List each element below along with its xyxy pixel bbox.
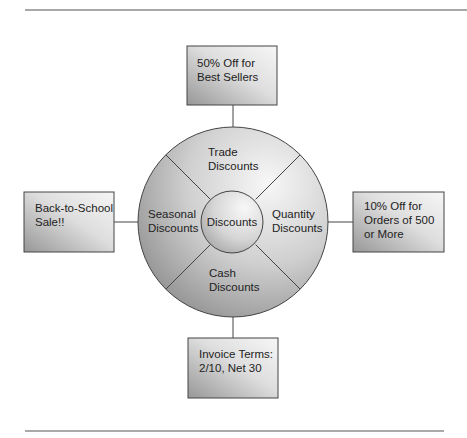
example-box-right: 10% Off for Orders of 500 or More (353, 192, 444, 252)
example-right-line1: 10% Off for (364, 200, 422, 212)
segment-quantity-line2: Discounts (272, 222, 323, 234)
example-bottom-line1: Invoice Terms: (199, 348, 273, 360)
segment-cash-line1: Cash (209, 267, 236, 279)
segment-trade-line1: Trade (208, 146, 238, 158)
example-box-left: Back-to-School Sale!! (24, 192, 114, 252)
segment-seasonal-line2: Discounts (148, 222, 199, 234)
segment-trade-line2: Discounts (208, 160, 259, 172)
center-label: Discounts (207, 216, 258, 228)
segment-quantity-line1: Quantity (272, 208, 315, 220)
segment-cash-line2: Discounts (209, 281, 260, 293)
example-left-line1: Back-to-School (35, 202, 113, 214)
example-right-line2: Orders of 500 (364, 214, 434, 226)
example-box-bottom: Invoice Terms: 2/10, Net 30 (188, 338, 278, 398)
example-top-line1: 50% Off for (197, 57, 255, 69)
example-box-top: 50% Off for Best Sellers (187, 46, 277, 105)
example-bottom-line2: 2/10, Net 30 (199, 362, 262, 374)
example-right-line3: or More (364, 228, 404, 240)
discount-types-diagram: Discounts Trade Discounts Seasonal Disco… (0, 0, 467, 438)
segment-seasonal-line1: Seasonal (148, 208, 196, 220)
example-top-line2: Best Sellers (197, 71, 259, 83)
example-left-line2: Sale!! (35, 216, 64, 228)
